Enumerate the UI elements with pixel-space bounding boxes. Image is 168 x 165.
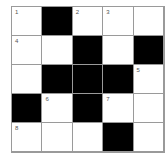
grid-cell[interactable]: 5: [134, 65, 164, 94]
clue-number: 2: [76, 9, 79, 15]
clue-number: 1: [15, 9, 18, 15]
clue-number: 6: [45, 96, 48, 102]
grid-cell[interactable]: 2: [73, 7, 103, 36]
clue-number: 3: [106, 9, 109, 15]
grid-cell[interactable]: [134, 7, 164, 36]
clue-number: 4: [15, 38, 18, 44]
block-cell: [12, 94, 42, 123]
grid-cell[interactable]: 3: [103, 7, 133, 36]
grid-cell[interactable]: 6: [42, 94, 72, 123]
clue-number: 8: [15, 125, 18, 131]
block-cell: [42, 65, 72, 94]
grid-cell[interactable]: 1: [12, 7, 42, 36]
clue-number: 5: [137, 67, 140, 73]
grid-cell[interactable]: [42, 36, 72, 65]
block-cell: [103, 65, 133, 94]
block-cell: [73, 94, 103, 123]
grid-cell[interactable]: [134, 123, 164, 152]
block-cell: [103, 123, 133, 152]
grid-cell[interactable]: 7: [103, 94, 133, 123]
block-cell: [73, 36, 103, 65]
grid-cell[interactable]: [42, 123, 72, 152]
crossword-grid: 12345678: [11, 6, 165, 153]
block-cell: [134, 36, 164, 65]
grid-cell[interactable]: 8: [12, 123, 42, 152]
grid-cell[interactable]: [73, 123, 103, 152]
grid-cell[interactable]: [134, 94, 164, 123]
block-cell: [42, 7, 72, 36]
grid-cell[interactable]: [12, 65, 42, 94]
grid-cell[interactable]: [103, 36, 133, 65]
block-cell: [73, 65, 103, 94]
clue-number: 7: [106, 96, 109, 102]
grid-cell[interactable]: 4: [12, 36, 42, 65]
